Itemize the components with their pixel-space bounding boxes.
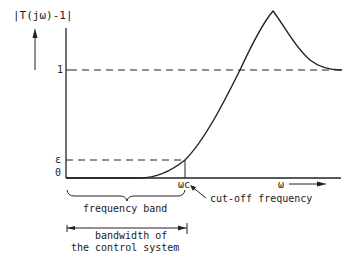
frequency-band-label: frequency band bbox=[83, 204, 167, 214]
bandwidth-label-line2: the control system bbox=[71, 243, 179, 253]
y-tick-label-epsilon: ε bbox=[55, 155, 61, 165]
frequency-band-brace bbox=[67, 190, 185, 201]
x-axis-label: ω bbox=[278, 180, 284, 190]
diagram-graphics bbox=[0, 0, 352, 257]
y-tick-label-one: 1 bbox=[57, 65, 63, 75]
right-arrow-icon bbox=[178, 226, 186, 231]
bandwidth-label-line1: bandwidth of bbox=[95, 231, 167, 241]
cutoff-pointer-arrowhead-icon bbox=[190, 185, 196, 191]
cutoff-marker-label: ωc bbox=[178, 180, 190, 190]
cutoff-frequency-annotation: cut-off frequency bbox=[210, 194, 312, 204]
up-arrow-icon bbox=[33, 28, 38, 38]
y-tick-label-zero: 0 bbox=[55, 168, 61, 178]
frequency-response-diagram: |T(jω)-1| 1 ε 0 ωc ω cut-off frequency f… bbox=[0, 0, 352, 257]
y-axis-label: |T(jω)-1| bbox=[13, 10, 73, 21]
response-curve bbox=[66, 11, 342, 178]
left-arrow-icon bbox=[67, 226, 75, 230]
right-arrow-icon bbox=[317, 182, 327, 187]
